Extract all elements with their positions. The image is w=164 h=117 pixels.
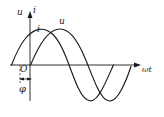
axis-label-omega-t: ωt [142,66,152,74]
vertical-axis [28,11,33,101]
origin-label: O [20,65,27,74]
figure-canvas [0,0,164,117]
axis-label-i: i [33,6,36,15]
vertical-axis-arrowhead [28,11,33,18]
horizontal-axis-arrowhead [134,62,141,67]
curve-label-u: u [59,17,65,26]
waveform-figure: u i i u O φ ωt [0,0,164,117]
axis-label-u: u [17,8,23,17]
phase-label-phi: φ [19,84,26,94]
phase-bracket-arrow-right [27,77,32,80]
curve-label-i: i [37,25,40,34]
